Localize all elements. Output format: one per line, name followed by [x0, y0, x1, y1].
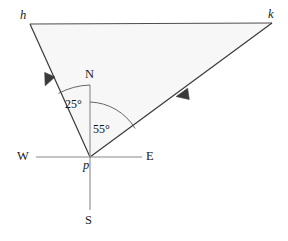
- point-label-k: k: [268, 8, 274, 21]
- compass-label-south: S: [85, 214, 92, 227]
- angle-label-55: 55°: [93, 123, 110, 135]
- point-label-p: p: [83, 159, 89, 172]
- compass-label-west: W: [17, 150, 29, 163]
- angle-label-25: 25°: [65, 98, 82, 110]
- compass-label-north: N: [85, 68, 94, 81]
- figure-canvas: [0, 0, 288, 241]
- geometry-figure: h k p N S E W 25° 55°: [0, 0, 288, 241]
- point-label-h: h: [20, 9, 26, 22]
- compass-label-east: E: [146, 150, 154, 163]
